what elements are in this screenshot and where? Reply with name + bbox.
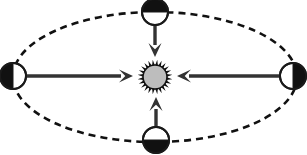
planet-left	[0, 63, 26, 89]
planet-right	[280, 63, 306, 89]
planet-bottom	[143, 127, 169, 153]
planet-top	[142, 0, 168, 25]
orbit-diagram	[0, 0, 307, 155]
orbit-diagram-canvas	[0, 0, 307, 155]
sun-disc	[143, 65, 167, 89]
